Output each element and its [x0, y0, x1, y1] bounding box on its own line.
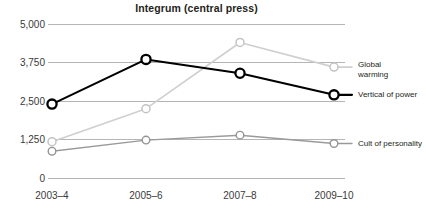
data-point-cult-of-personality-2: [236, 131, 244, 139]
data-point-vertical-of-power-3: [329, 90, 338, 99]
data-point-global-warming-0: [48, 138, 56, 146]
data-point-vertical-of-power-2: [235, 69, 244, 78]
series-line-cult-of-personality: [52, 135, 352, 151]
series-label-global-warming: Global warming: [358, 60, 388, 79]
series-label-cult-of-personality: Cult of personality: [358, 139, 422, 149]
data-point-cult-of-personality-3: [330, 140, 338, 148]
series-markers-global-warming: [48, 38, 338, 145]
data-point-cult-of-personality-0: [48, 147, 56, 155]
series-cult-of-personality: [48, 131, 352, 155]
data-point-global-warming-2: [236, 38, 244, 46]
series-line-global-warming: [52, 42, 352, 141]
data-point-global-warming-3: [330, 63, 338, 71]
data-point-cult-of-personality-1: [142, 136, 150, 144]
plot-area: [0, 0, 426, 212]
chart-container: Integrum (central press) 5,000 3,750 2,5…: [0, 0, 426, 212]
gridlines: [48, 24, 345, 178]
series-global-warming: [48, 38, 352, 145]
series-label-vertical-of-power: Vertical of power: [358, 90, 417, 100]
series-markers-cult-of-personality: [48, 131, 338, 155]
data-point-global-warming-1: [142, 105, 150, 113]
data-point-vertical-of-power-0: [47, 99, 56, 108]
series-line-vertical-of-power: [52, 59, 352, 104]
data-point-vertical-of-power-1: [141, 55, 150, 64]
